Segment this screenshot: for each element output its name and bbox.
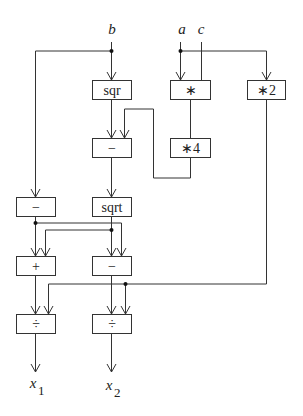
wire-b-neg — [36, 51, 112, 197]
input-c-label: c — [198, 21, 205, 37]
node-label: ∗ — [185, 83, 197, 98]
node-label: ÷ — [108, 317, 116, 332]
node-sqrt: sqrt — [93, 198, 132, 217]
node-sqr: sqr — [93, 81, 132, 100]
wire-a-mul2 — [181, 51, 267, 80]
node-label: − — [108, 259, 116, 274]
input-b-label: b — [108, 21, 116, 37]
node-mul2: ∗2 — [248, 81, 286, 100]
svg-text:2: 2 — [114, 385, 121, 400]
junction-dot — [179, 49, 183, 53]
svg-text:x: x — [105, 377, 113, 393]
node-add: + — [17, 257, 56, 276]
node-mul4: ∗4 — [171, 139, 211, 158]
junction-dot — [110, 49, 114, 53]
node-mul: ∗ — [171, 81, 211, 100]
node-sub1: − — [93, 139, 132, 158]
node-neg: − — [17, 198, 56, 217]
wires — [31, 42, 271, 372]
output-x2-label: x 2 — [105, 377, 121, 400]
input-a-label: a — [178, 21, 186, 37]
node-label: − — [108, 141, 116, 156]
node-label: ∗4 — [181, 141, 200, 156]
node-label: ÷ — [32, 317, 40, 332]
junction-dot — [124, 282, 128, 286]
node-label: + — [32, 259, 40, 274]
junction-dot — [110, 228, 114, 232]
wire-sqrt-add — [46, 230, 112, 256]
node-div2: ÷ — [93, 315, 132, 334]
node-div1: ÷ — [17, 315, 56, 334]
output-x1-label: x 1 — [29, 375, 45, 398]
svg-text:x: x — [29, 375, 37, 391]
node-label: − — [32, 200, 40, 215]
node-sub2: − — [93, 257, 132, 276]
wire-mul2-div1 — [49, 99, 267, 314]
junction-dot — [34, 221, 38, 225]
dataflow-diagram: b a c — [0, 0, 303, 416]
node-label: sqrt — [102, 200, 123, 215]
svg-text:1: 1 — [38, 383, 45, 398]
node-label: ∗2 — [257, 83, 276, 98]
node-label: sqr — [103, 83, 120, 98]
